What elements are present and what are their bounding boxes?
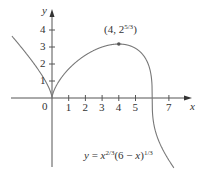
equation-label: y = x2/3(6 − x)1/3 <box>84 150 153 161</box>
y-tick-label: 4 <box>40 24 46 35</box>
y-axis-arrow-icon <box>50 9 55 17</box>
chart-figure: 123457 1234 y x 0 (4, 25/3) y = x2/3(6 −… <box>0 0 201 179</box>
x-tick-label: 1 <box>66 102 72 113</box>
x-tick-label: 5 <box>133 102 139 113</box>
y-axis-label: y <box>42 5 47 16</box>
x-axis-label: x <box>190 101 195 112</box>
y-tick-label: 2 <box>40 58 46 69</box>
x-tick-label: 2 <box>82 102 88 113</box>
y-tick-label: 3 <box>40 41 46 52</box>
x-tick-label: 3 <box>99 102 105 113</box>
origin-label: 0 <box>42 101 48 112</box>
x-tick-label: 7 <box>166 102 172 113</box>
max-point-label: (4, 25/3) <box>104 24 137 35</box>
x-tick-label: 4 <box>116 102 122 113</box>
y-tick-label: 1 <box>40 75 46 86</box>
max-point-marker <box>117 42 121 46</box>
